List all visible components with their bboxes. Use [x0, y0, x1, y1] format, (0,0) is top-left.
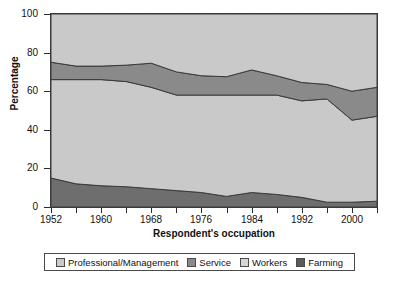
legend-item: Workers	[240, 257, 287, 268]
x-tick-mark	[277, 208, 278, 213]
x-tick-mark	[302, 208, 303, 213]
x-tick-mark	[101, 208, 102, 213]
x-tick-label: 1952	[31, 214, 71, 225]
legend-label: Service	[199, 257, 231, 268]
legend-swatch-icon	[187, 258, 196, 267]
x-tick-mark	[352, 208, 353, 213]
x-tick-label: 2000	[332, 214, 372, 225]
plot-area	[50, 13, 378, 208]
y-tick-label: 0	[12, 202, 38, 212]
x-tick-mark	[176, 208, 177, 213]
x-tick-mark	[51, 208, 52, 213]
legend-swatch-icon	[56, 258, 65, 267]
x-tick-mark	[377, 208, 378, 213]
chart-legend: Professional/ManagementServiceWorkersFar…	[44, 253, 355, 271]
legend-label: Workers	[252, 257, 287, 268]
x-tick-label: 1968	[131, 214, 171, 225]
y-tick-label: 80	[12, 48, 38, 58]
y-tick-label: 100	[12, 9, 38, 19]
legend-swatch-icon	[296, 258, 305, 267]
x-tick-mark	[201, 208, 202, 213]
x-tick-label: 1992	[282, 214, 322, 225]
x-tick-mark	[151, 208, 152, 213]
x-tick-mark	[327, 208, 328, 213]
x-tick-label: 1960	[81, 214, 121, 225]
x-tick-mark	[252, 208, 253, 213]
y-tick-label: 40	[12, 125, 38, 135]
x-tick-mark	[76, 208, 77, 213]
chart-figure: Percentage 020406080100 1952196019681976…	[0, 0, 398, 289]
stacked-area-series	[51, 14, 377, 207]
legend-swatch-icon	[240, 258, 249, 267]
y-tick-label: 20	[12, 163, 38, 173]
x-tick-label: 1984	[232, 214, 272, 225]
x-tick-mark	[126, 208, 127, 213]
x-tick-label: 1976	[181, 214, 221, 225]
legend-item: Farming	[296, 257, 343, 268]
y-tick-label: 60	[12, 86, 38, 96]
x-tick-mark	[227, 208, 228, 213]
legend-label: Professional/Management	[68, 257, 178, 268]
legend-item: Service	[187, 257, 231, 268]
legend-item: Professional/Management	[56, 257, 178, 268]
x-axis-title: Respondent's occupation	[50, 228, 378, 239]
legend-label: Farming	[308, 257, 343, 268]
